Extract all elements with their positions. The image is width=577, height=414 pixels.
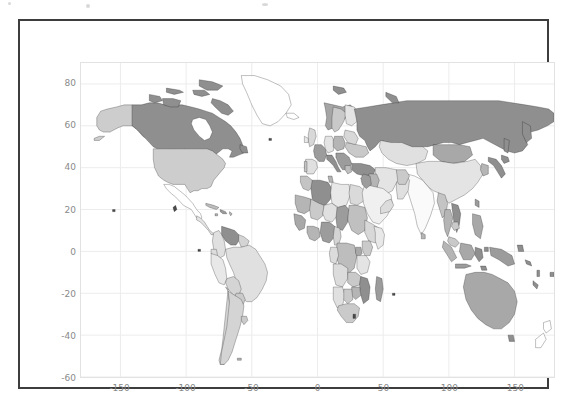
country-angola [333,264,347,287]
country-iceland [286,113,299,119]
world-map [81,63,554,377]
country-cambodia [452,222,460,230]
country-senegal-guinea [294,214,306,231]
country-tunisia [328,176,333,182]
island-devon [193,90,210,96]
country-poland [333,136,345,151]
island-hokkaido [501,155,509,163]
country-mauritania [295,195,311,214]
island-taiwan [475,199,479,207]
country-uruguay [241,316,248,324]
x-tick-label: -150 [100,384,140,393]
island-jamaica [215,214,218,216]
country-greenland [241,76,291,126]
countries [94,76,554,365]
country-niger [323,203,337,222]
country-portugal [304,161,307,171]
x-tick-label: -50 [232,384,272,393]
island-png-east [517,245,524,251]
country-ukraine [345,143,369,158]
x-tick-label: 100 [429,384,469,393]
scan-artifact-layer [0,0,577,20]
region-central-america [197,216,214,235]
x-tick-label: -100 [166,384,206,393]
map-plot-area [80,62,555,378]
country-alaska [97,105,132,132]
x-tick-label: 0 [298,384,338,393]
country-argentina [220,291,244,364]
island-vanuatu [537,270,540,276]
island-caribbean-dot [173,205,177,211]
country-lesotho [353,314,356,318]
country-libya [331,182,351,207]
y-tick-label: 40 [42,163,76,172]
island-svalbard [333,86,346,94]
scan-speck [8,2,11,5]
island-sri-lanka [421,233,425,239]
country-ivory-ghana [307,226,320,241]
country-madagascar [375,277,383,302]
country-peru [211,253,227,284]
island-south-georgia [269,138,272,140]
island-borneo [459,243,475,260]
country-mongolia [433,145,472,164]
y-tick-label: 80 [42,79,76,88]
country-chad [336,205,349,230]
x-tick-label: 50 [364,384,404,393]
country-south-africa [337,304,359,323]
island-galapagos [198,249,201,251]
country-uk [308,128,316,147]
scan-speck [262,3,268,6]
country-mozambique [360,277,371,304]
scan-speck [86,4,90,8]
country-gabon-congo [329,247,338,264]
figure-frame: 80 60 40 20 0 -20 -40 -60 -150 -100 -50 … [18,19,549,389]
island-sulawesi [475,247,483,262]
y-tick-label: 60 [42,121,76,130]
x-axis-tick-labels: -150 -100 -50 0 50 100 150 [80,384,555,400]
island-hawaii [113,210,116,212]
island-solomon [525,260,532,266]
island-banks [149,94,162,102]
country-zambia [348,272,361,287]
island-philippines [473,214,484,239]
island-tasmania [508,335,515,341]
country-ireland [304,136,308,142]
island-java [455,264,471,268]
country-france [314,145,327,162]
island-aleutian [94,136,105,140]
island-ellesmere [199,80,223,90]
country-thailand [444,210,453,237]
country-new-zealand-north [543,320,551,333]
island-baffin [211,99,233,116]
y-axis-tick-labels: 80 60 40 20 0 -20 -40 -60 [34,62,76,378]
country-zimbabwe [352,287,361,300]
y-tick-label: 0 [42,247,76,256]
country-cameroon [333,226,341,245]
island-timor [480,266,487,270]
island-new-caledonia [533,281,538,289]
island-cuba [206,203,219,209]
country-guyana-suriname [239,235,250,248]
island-puerto-rico [229,212,232,216]
island-halmahera [484,247,488,251]
y-tick-label: -60 [42,374,76,383]
country-australia [463,272,517,329]
island-fiji [550,272,554,276]
country-greece [345,166,352,174]
country-united-states [153,149,225,193]
country-kenya [362,241,373,256]
island-new-guinea [490,247,515,266]
country-belarus-baltics [344,130,358,145]
country-tanzania [357,256,370,275]
country-nigeria [320,222,334,243]
island-hispaniola [220,210,227,214]
island-mauritius [392,293,395,295]
x-tick-label: 150 [495,384,535,393]
y-tick-label: -20 [42,289,76,298]
y-tick-label: -40 [42,331,76,340]
island-novaya-zemlya [386,92,399,102]
country-botswana [344,289,353,304]
island-melville [166,88,183,94]
y-tick-label: 20 [42,205,76,214]
